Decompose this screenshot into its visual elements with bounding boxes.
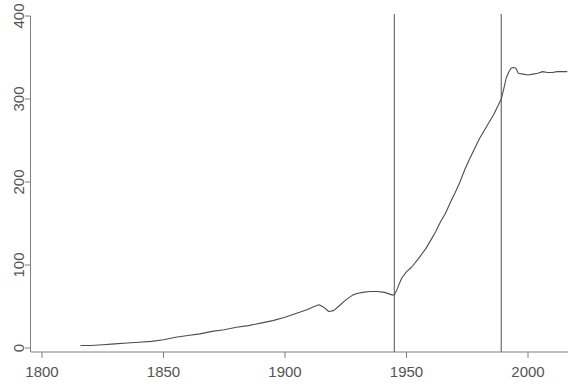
- data-series-line: [81, 67, 567, 345]
- y-tick-labels: 0100200300400: [10, 3, 27, 352]
- x-tick-label: 1850: [147, 363, 180, 380]
- y-tick-label: 100: [10, 252, 27, 277]
- y-tick-label: 300: [10, 86, 27, 111]
- y-tick-label: 0: [10, 344, 27, 352]
- vertical-reference-lines: [394, 14, 501, 352]
- x-tick-label: 2000: [511, 363, 544, 380]
- line-chart-svg: 18001850190019502000 0100200300400: [0, 0, 568, 388]
- x-tick-label: 1950: [390, 363, 423, 380]
- y-tick-label: 400: [10, 3, 27, 28]
- chart-container: 18001850190019502000 0100200300400: [0, 0, 568, 388]
- x-tick-label: 1800: [25, 363, 58, 380]
- y-tick-label: 200: [10, 169, 27, 194]
- series-line-value: [81, 67, 567, 345]
- x-tick-labels: 18001850190019502000: [25, 363, 544, 380]
- x-tick-label: 1900: [268, 363, 301, 380]
- x-axis: [31, 352, 568, 358]
